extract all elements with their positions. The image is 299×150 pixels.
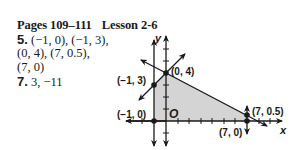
vertex-label: (−1, 0) [117,109,146,120]
vertex-label: (7, 0.5) [252,106,284,117]
feasible-region-graph: y x O (−1, 0) (−1, 3) (0, 4) (7, 0.5) (7… [0,0,299,150]
vertex-point [151,82,157,88]
vertex-label: (7, 0) [219,127,242,138]
vertex-point [163,70,169,76]
vertex-point [244,118,250,124]
vertex-label: (0, 4) [171,66,194,77]
vertex-point [151,118,157,124]
origin-label: O [169,107,179,121]
y-axis-label: y [154,32,162,44]
vertex-label: (−1, 3) [117,75,146,86]
x-axis-label: x [279,124,287,136]
vertex-point [244,112,250,118]
